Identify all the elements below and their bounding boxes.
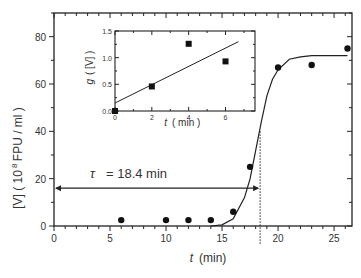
inset-data-point [223,58,229,64]
data-point [344,45,350,51]
x-tick-label: 0 [51,233,57,244]
data-point [185,217,191,223]
chart-canvas: 0510152025020406080 02460.00.51.01.5 t (… [0,0,361,278]
data-point [308,62,314,68]
svg-text:0: 0 [113,114,117,121]
y-axis-label: [V] ( 10 8 FPU / ml ) [10,107,25,209]
svg-text:g: g [84,79,95,85]
tau-symbol: τ [90,166,96,181]
svg-text:[V] ( 10 8 FPU / ml ): [V] ( 10 8 FPU / ml ) [10,107,25,209]
svg-text:0.5: 0.5 [102,81,112,88]
svg-text:6: 6 [224,114,228,121]
data-point [230,209,236,215]
inset-data-point [149,83,155,89]
x-tick-label: 5 [107,233,113,244]
inset-plot: 02460.00.51.01.5 [102,28,255,121]
svg-text:0.0: 0.0 [102,108,112,115]
inset-data-point [112,108,118,114]
tau-value: = 18.4 min [106,166,167,181]
x-tick-label: 20 [272,233,284,244]
x-tick-label: 10 [160,233,172,244]
svg-text:( [V] ): ( [V] ) [84,51,95,75]
data-point [275,64,281,70]
x-tick-label: 25 [329,233,341,244]
data-point [118,217,124,223]
y-tick-label: 80 [35,32,47,43]
y-tick-label: 40 [35,126,47,137]
data-point [163,217,169,223]
x-axis-variable: t [190,251,194,265]
inset-x-variable: t [164,117,168,128]
svg-text:1.5: 1.5 [102,28,112,35]
x-tick-label: 15 [216,233,228,244]
y-tick-label: 0 [40,221,46,232]
x-axis-unit: (min) [199,251,226,265]
inset-x-unit: ( min ) [172,117,200,128]
inset-data-point [186,41,192,47]
data-point [247,164,253,170]
inset-y-label: g ( [V] ) [84,51,95,85]
y-tick-label: 20 [35,174,47,185]
data-point [208,217,214,223]
y-tick-label: 60 [35,79,47,90]
svg-text:1.0: 1.0 [102,55,112,62]
inset-frame [115,31,255,111]
svg-text:2: 2 [150,114,154,121]
